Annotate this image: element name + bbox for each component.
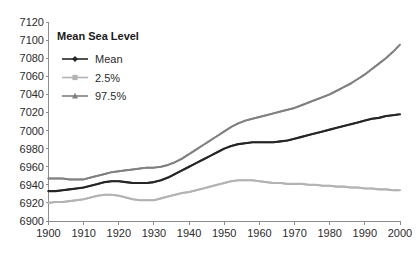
data-point-marker [78, 179, 80, 181]
data-point-marker [136, 182, 138, 184]
data-point-marker [394, 49, 396, 51]
data-point-marker [88, 197, 90, 199]
data-point-marker [218, 151, 220, 153]
data-point-marker [85, 178, 87, 180]
data-point-marker [171, 195, 173, 197]
data-point-marker [90, 197, 92, 199]
data-point-marker [60, 190, 62, 192]
data-point-marker [317, 184, 319, 186]
data-point-marker [113, 171, 115, 173]
data-point-marker [121, 181, 123, 183]
data-point-marker [350, 83, 352, 85]
data-point-marker [148, 182, 150, 184]
data-point-marker [199, 160, 201, 162]
data-point-marker [382, 188, 384, 190]
data-point-marker [188, 153, 190, 155]
legend-item-mean[interactable]: Mean [62, 53, 123, 65]
data-point-marker [97, 195, 99, 197]
data-point-marker [86, 198, 88, 200]
data-point-marker [67, 200, 69, 202]
data-point-marker [315, 132, 317, 134]
data-point-marker [60, 201, 62, 203]
data-point-marker [364, 120, 366, 122]
data-point-marker [194, 163, 196, 165]
data-point-marker [174, 173, 176, 175]
data-point-marker [306, 102, 308, 104]
data-point-marker [127, 197, 129, 199]
data-point-marker [139, 199, 141, 201]
data-point-marker [322, 185, 324, 187]
data-point-marker [320, 97, 322, 99]
data-point-marker [346, 124, 348, 126]
legend-label: 97.5% [95, 90, 126, 102]
data-point-marker [373, 188, 375, 190]
data-point-marker [376, 188, 378, 190]
x-tick-label: 1980 [317, 227, 341, 239]
data-point-marker [317, 98, 319, 100]
data-point-marker [252, 179, 254, 181]
data-point-marker [51, 178, 53, 180]
data-point-marker [383, 116, 385, 118]
data-point-marker [158, 166, 160, 168]
data-point-marker [74, 188, 76, 190]
data-point-marker [322, 96, 324, 98]
y-tick-label: 6980 [20, 143, 44, 155]
data-point-marker [195, 149, 197, 151]
data-point-marker [104, 181, 106, 183]
data-point-marker [310, 184, 312, 186]
data-point-marker [237, 143, 239, 145]
data-point-marker [232, 125, 234, 127]
x-tick-label: 1900 [36, 227, 60, 239]
data-point-marker [345, 125, 347, 127]
data-point-marker [371, 68, 373, 70]
data-point-marker [150, 167, 152, 169]
data-point-marker [397, 46, 399, 48]
data-point-marker [348, 84, 350, 86]
data-point-marker [190, 165, 192, 167]
data-point-marker [285, 109, 287, 111]
legend-item-2-5-[interactable]: 2.5% [62, 72, 120, 84]
data-point-marker [331, 93, 333, 95]
data-point-marker [120, 195, 122, 197]
data-point-marker [285, 183, 287, 185]
data-point-marker [311, 184, 313, 186]
legend-entries: Mean2.5%97.5% [62, 53, 126, 102]
data-point-marker [318, 132, 320, 134]
data-point-marker [215, 184, 217, 186]
data-point-marker [281, 182, 283, 184]
data-point-marker [232, 180, 234, 182]
data-point-marker [375, 117, 377, 119]
data-point-marker [62, 201, 64, 203]
data-point-marker [308, 102, 310, 104]
data-point-marker [90, 185, 92, 187]
data-point-marker [153, 181, 155, 183]
data-point-marker [366, 72, 368, 74]
data-point-marker [378, 63, 380, 65]
data-point-marker [234, 144, 236, 146]
data-point-marker [237, 179, 239, 181]
data-point-marker [302, 136, 304, 138]
legend-item-97-5-[interactable]: 97.5% [62, 90, 126, 102]
data-point-marker [181, 192, 183, 194]
data-point-marker [369, 188, 371, 190]
data-point-marker [281, 110, 283, 112]
data-point-marker [56, 201, 58, 203]
data-point-marker [267, 181, 269, 183]
data-point-marker [259, 141, 261, 143]
data-point-marker [55, 190, 57, 192]
data-point-marker [222, 183, 224, 185]
diamond-marker-icon [72, 56, 78, 62]
data-point-marker [220, 183, 222, 185]
data-point-marker [137, 199, 139, 201]
data-point-marker [325, 95, 327, 97]
data-point-marker [146, 199, 148, 201]
data-point-marker [132, 198, 134, 200]
data-point-marker [160, 198, 162, 200]
data-point-marker [83, 179, 85, 181]
data-point-marker [266, 114, 268, 116]
data-point-marker [262, 115, 264, 117]
data-point-marker [292, 183, 294, 185]
data-point-marker [185, 168, 187, 170]
data-point-marker [185, 192, 187, 194]
x-tick-label: 1910 [71, 227, 95, 239]
